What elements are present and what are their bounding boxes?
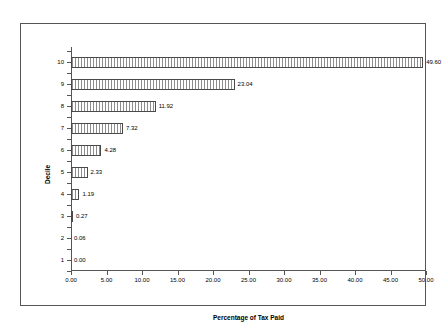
value-tick [213,271,214,275]
category-tick-label: 7 [61,125,64,131]
bar-value-label: 11.92 [159,103,174,109]
category-tick-label: 5 [61,169,64,175]
bar [71,101,156,112]
category-tick [67,62,71,63]
category-tick [67,260,71,261]
bar [71,211,73,222]
value-tick [391,271,392,275]
bar [71,189,79,200]
bar-row: 1.19 [71,183,426,205]
bar-value-label: 1.19 [82,191,94,197]
category-tick-label: 2 [61,235,64,241]
plot-area: 0.000.060.271.192.334.287.3211.9223.0449… [71,51,426,271]
category-boundary-tick [67,117,71,118]
category-boundary-tick [67,205,71,206]
value-tick-label: 30.00 [276,277,291,283]
value-tick-label: 5.00 [101,277,113,283]
bar-value-label: 0.00 [74,257,86,263]
category-tick-label: 3 [61,213,64,219]
category-tick-label: 10 [57,59,64,65]
value-tick-label: 40.00 [347,277,362,283]
value-tick-label: 15.00 [170,277,185,283]
y-axis-title: Decile [44,165,51,184]
category-boundary-tick [67,51,71,52]
value-tick-label: 10.00 [134,277,149,283]
bar-value-label: 4.28 [104,147,116,153]
bar-value-label: 0.27 [76,213,88,219]
category-tick [67,128,71,129]
bar-row: 7.32 [71,117,426,139]
bar-row: 11.92 [71,95,426,117]
bar-value-label: 2.33 [91,169,103,175]
category-boundary-tick [67,73,71,74]
value-tick [178,271,179,275]
bar-row: 23.04 [71,73,426,95]
value-tick [71,271,72,275]
bar [71,79,235,90]
bar-row: 0.00 [71,249,426,271]
value-tick [284,271,285,275]
category-tick [67,106,71,107]
value-tick-label: 50.00 [418,277,433,283]
value-tick [320,271,321,275]
category-tick [67,238,71,239]
category-boundary-tick [67,227,71,228]
value-tick [355,271,356,275]
bar-row: 49.60 [71,51,426,73]
category-tick-label: 9 [61,81,64,87]
category-tick [67,216,71,217]
category-tick [67,84,71,85]
bar [71,145,101,156]
category-tick [67,172,71,173]
value-tick-label: 20.00 [205,277,220,283]
value-tick-label: 45.00 [383,277,398,283]
category-tick-label: 1 [61,257,64,263]
bar [71,123,123,134]
bar-row: 4.28 [71,139,426,161]
value-tick [107,271,108,275]
bar-value-label: 49.60 [426,59,441,65]
bar [71,57,423,68]
category-tick-label: 8 [61,103,64,109]
value-tick-label: 0.00 [65,277,77,283]
category-boundary-tick [67,249,71,250]
bar-value-label: 0.06 [74,235,86,241]
x-axis-title: Percentage of Tax Paid [71,314,426,321]
bar-row: 0.27 [71,205,426,227]
category-tick-label: 4 [61,191,64,197]
bar-row: 0.06 [71,227,426,249]
bar-row: 2.33 [71,161,426,183]
category-boundary-tick [67,161,71,162]
bar-value-label: 23.04 [238,81,253,87]
category-boundary-tick [67,95,71,96]
bar-value-label: 7.32 [126,125,138,131]
category-tick [67,150,71,151]
value-tick [426,271,427,275]
category-tick-label: 6 [61,147,64,153]
chart-frame: 0.000.060.271.192.334.287.3211.9223.0449… [20,23,426,306]
value-tick-label: 35.00 [312,277,327,283]
value-tick-label: 25.00 [241,277,256,283]
category-boundary-tick [67,183,71,184]
category-tick [67,194,71,195]
value-tick [142,271,143,275]
value-tick [249,271,250,275]
category-boundary-tick [67,139,71,140]
bar [71,167,88,178]
